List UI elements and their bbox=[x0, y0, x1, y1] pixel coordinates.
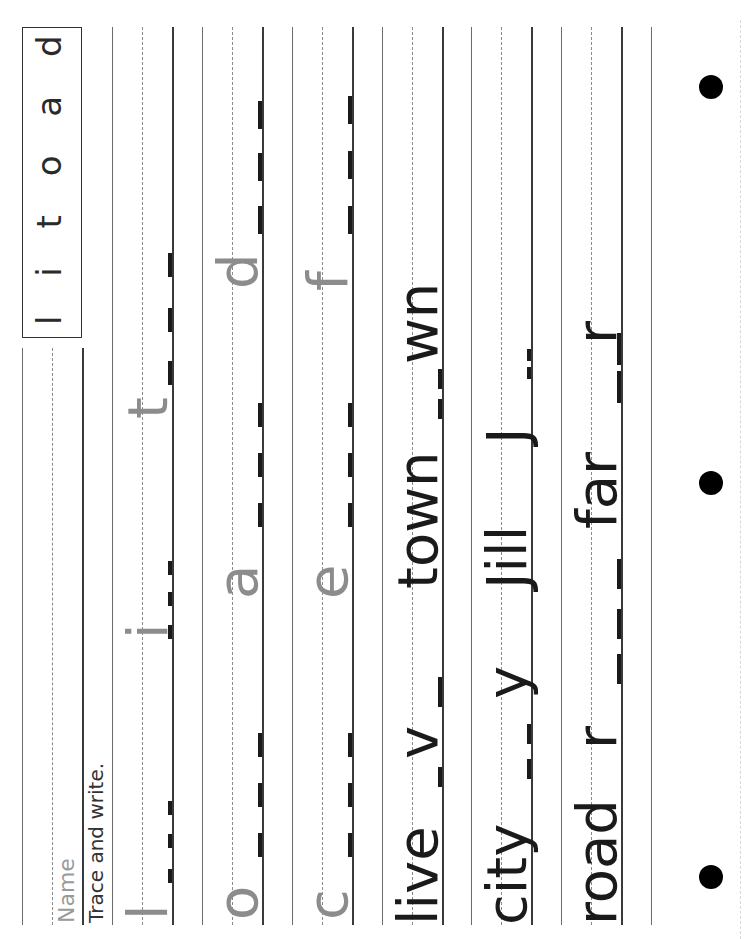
write-mark bbox=[168, 625, 172, 639]
write-mark bbox=[168, 561, 172, 575]
row-2-mid-line bbox=[232, 27, 233, 925]
word: J bbox=[479, 427, 535, 444]
write-mark bbox=[168, 361, 172, 385]
trace-letter: d bbox=[210, 253, 266, 289]
write-mark bbox=[168, 801, 172, 815]
bottom-line bbox=[651, 27, 652, 925]
write-mark bbox=[258, 453, 262, 477]
write-mark bbox=[617, 333, 621, 365]
binder-hole bbox=[699, 865, 723, 889]
letter-box-letters: l i t o a d c e f bbox=[29, 0, 69, 325]
row-5-base-line bbox=[531, 27, 533, 925]
write-mark bbox=[617, 371, 621, 403]
write-mark bbox=[438, 369, 442, 389]
write-mark bbox=[168, 308, 172, 332]
write-mark bbox=[348, 453, 352, 477]
write-mark bbox=[617, 654, 621, 684]
word: far bbox=[569, 452, 625, 529]
trace-letter: f bbox=[300, 271, 356, 291]
word: city bbox=[479, 824, 535, 925]
word: town bbox=[390, 451, 446, 589]
write-mark bbox=[348, 96, 352, 124]
word: live bbox=[390, 826, 446, 925]
binder-hole bbox=[699, 471, 723, 495]
trace-letter: t bbox=[120, 397, 176, 419]
name-label: Name bbox=[54, 858, 79, 923]
write-mark bbox=[348, 206, 352, 234]
letter-box: l i t o a d c e f bbox=[22, 27, 82, 338]
row-5-mid-line bbox=[501, 27, 502, 925]
row-2-top-line bbox=[202, 27, 203, 925]
trace-letter: o bbox=[210, 886, 266, 920]
worksheet: Name Trace and write. l i t o a d c e f … bbox=[0, 0, 745, 939]
row-4-top-line bbox=[382, 27, 383, 925]
write-mark bbox=[348, 403, 352, 427]
write-mark bbox=[438, 767, 442, 787]
row-3-top-line bbox=[292, 27, 293, 925]
write-mark bbox=[168, 592, 172, 606]
name-top-line bbox=[22, 348, 23, 925]
write-mark bbox=[438, 677, 442, 707]
write-mark bbox=[258, 101, 262, 129]
write-mark bbox=[348, 151, 352, 179]
perforation-edge bbox=[740, 20, 741, 939]
row-5-top-line bbox=[471, 27, 472, 925]
row-2-base-line bbox=[262, 27, 264, 925]
write-mark bbox=[617, 609, 621, 639]
word: wn bbox=[390, 283, 446, 364]
write-mark bbox=[258, 733, 262, 757]
name-mid-line bbox=[52, 348, 53, 925]
trace-letter: e bbox=[300, 565, 356, 599]
write-mark bbox=[258, 403, 262, 427]
word: v bbox=[390, 726, 446, 759]
write-mark bbox=[168, 253, 172, 277]
write-mark bbox=[438, 399, 442, 419]
write-mark bbox=[527, 759, 531, 779]
row-1-base-line bbox=[172, 27, 174, 925]
write-mark bbox=[527, 349, 531, 361]
write-mark bbox=[348, 833, 352, 857]
trace-letter: a bbox=[210, 565, 266, 599]
write-mark bbox=[617, 559, 621, 589]
trace-letter: c bbox=[300, 889, 356, 920]
trace-letter: l bbox=[120, 904, 176, 920]
write-mark bbox=[348, 503, 352, 527]
word: Jill bbox=[479, 526, 535, 589]
write-mark bbox=[258, 503, 262, 527]
write-mark bbox=[348, 733, 352, 757]
write-mark bbox=[348, 783, 352, 807]
word: road bbox=[569, 799, 625, 925]
row-1-mid-line bbox=[142, 27, 143, 925]
write-mark bbox=[168, 834, 172, 848]
write-mark bbox=[258, 783, 262, 807]
write-mark bbox=[258, 206, 262, 234]
row-6-top-line bbox=[561, 27, 562, 925]
write-mark bbox=[527, 367, 531, 379]
instruction-text: Trace and write. bbox=[84, 763, 108, 923]
binder-hole bbox=[699, 75, 723, 99]
row-3-base-line bbox=[352, 27, 354, 925]
word: r bbox=[569, 726, 625, 749]
write-mark bbox=[527, 724, 531, 744]
write-mark bbox=[258, 833, 262, 857]
row-3-mid-line bbox=[322, 27, 323, 925]
write-mark bbox=[168, 869, 172, 883]
word: y bbox=[479, 666, 535, 699]
write-mark bbox=[258, 153, 262, 181]
row-1-top-line bbox=[112, 27, 113, 925]
